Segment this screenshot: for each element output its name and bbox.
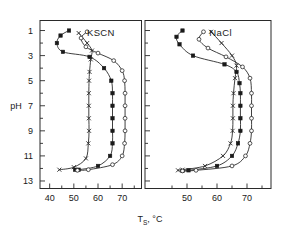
y-axis-title: pH — [10, 101, 22, 111]
x-tick-label: 50 — [69, 193, 79, 203]
marker-filled-square — [236, 142, 239, 145]
panel-label-nacl: NaCl — [209, 27, 232, 38]
panel-label-kscn: KSCN — [87, 27, 115, 38]
y-tick-label: 3 — [28, 51, 33, 61]
marker-filled-square — [187, 169, 190, 172]
y-tick-label: 11 — [24, 151, 33, 161]
marker-open-circle — [244, 154, 248, 158]
marker-filled-square — [223, 63, 226, 66]
curve-series-filled-square — [176, 31, 240, 171]
x-tick-label: 60 — [93, 193, 103, 203]
marker-open-circle — [250, 129, 254, 133]
marker-open-circle — [250, 91, 254, 95]
marker-open-circle — [120, 69, 124, 73]
marker-open-circle — [123, 79, 127, 83]
marker-open-circle — [96, 51, 100, 55]
marker-filled-square — [175, 35, 178, 38]
marker-filled-square — [239, 129, 242, 132]
marker-filled-square — [111, 104, 114, 107]
panel-right — [145, 21, 271, 189]
marker-open-circle — [248, 76, 252, 80]
marker-open-circle — [123, 141, 127, 145]
marker-open-circle — [76, 168, 80, 172]
marker-filled-square — [55, 41, 58, 44]
marker-filled-square — [230, 154, 233, 157]
marker-filled-square — [191, 54, 194, 57]
marker-open-circle — [123, 116, 127, 120]
y-tick-label: 5 — [28, 76, 33, 86]
x-tick-label: 50 — [182, 193, 192, 203]
figure-container: 13579111340506070KSCN506070NaClpHTS, °C — [0, 0, 283, 232]
y-tick-label: 9 — [28, 126, 33, 136]
curve-series-filled-square — [57, 31, 113, 170]
marker-open-circle — [241, 65, 245, 69]
marker-filled-square — [178, 43, 181, 46]
marker-cross — [85, 41, 89, 45]
y-tick-label: 7 — [28, 101, 33, 111]
marker-open-circle — [181, 169, 185, 173]
x-tick-label: 60 — [212, 193, 222, 203]
marker-open-circle — [197, 37, 201, 41]
marker-filled-square — [67, 29, 70, 32]
marker-cross — [230, 54, 234, 58]
marker-open-circle — [111, 163, 115, 167]
marker-open-circle — [248, 141, 252, 145]
marker-open-circle — [202, 30, 206, 34]
marker-open-circle — [206, 46, 210, 50]
marker-filled-square — [108, 154, 111, 157]
marker-open-circle — [123, 91, 127, 95]
marker-filled-square — [238, 81, 241, 84]
marker-filled-square — [235, 70, 238, 73]
marker-open-circle — [250, 104, 254, 108]
marker-open-circle — [79, 36, 83, 40]
x-axis-title: TS, °C — [138, 214, 163, 226]
panel-left — [40, 21, 142, 189]
marker-open-circle — [86, 168, 90, 172]
marker-open-circle — [250, 116, 254, 120]
marker-open-circle — [224, 55, 228, 59]
marker-filled-square — [239, 104, 242, 107]
marker-filled-square — [102, 66, 105, 69]
marker-cross — [221, 154, 225, 158]
marker-open-circle — [84, 45, 88, 49]
marker-open-circle — [123, 104, 127, 108]
marker-cross — [77, 31, 81, 35]
marker-filled-square — [111, 117, 114, 120]
marker-cross — [84, 156, 88, 160]
chart-svg: 13579111340506070KSCN506070NaClpHTS, °C — [0, 0, 283, 232]
marker-filled-square — [88, 55, 91, 58]
x-tick-label: 70 — [242, 193, 252, 203]
y-tick-label: 1 — [28, 26, 33, 36]
x-axis-title-unit: , °C — [147, 214, 163, 224]
marker-filled-square — [215, 164, 218, 167]
y-tick-label: 13 — [23, 176, 33, 186]
marker-cross — [220, 41, 224, 45]
marker-filled-square — [111, 92, 114, 95]
marker-open-circle — [123, 129, 127, 133]
x-tick-label: 70 — [117, 193, 127, 203]
curve-series-open-circle — [183, 32, 252, 171]
marker-open-circle — [120, 154, 124, 158]
curve-series-open-circle — [77, 32, 125, 171]
marker-filled-square — [111, 129, 114, 132]
marker-filled-square — [181, 29, 184, 32]
marker-filled-square — [239, 117, 242, 120]
marker-open-circle — [230, 164, 234, 168]
marker-filled-square — [239, 92, 242, 95]
marker-filled-square — [111, 142, 114, 145]
curve-series-x — [178, 32, 237, 171]
marker-open-circle — [194, 168, 198, 172]
marker-open-circle — [112, 59, 116, 63]
marker-filled-square — [96, 164, 99, 167]
marker-filled-square — [110, 79, 113, 82]
marker-filled-square — [59, 34, 62, 37]
x-tick-label: 40 — [45, 193, 55, 203]
marker-filled-square — [61, 50, 64, 53]
